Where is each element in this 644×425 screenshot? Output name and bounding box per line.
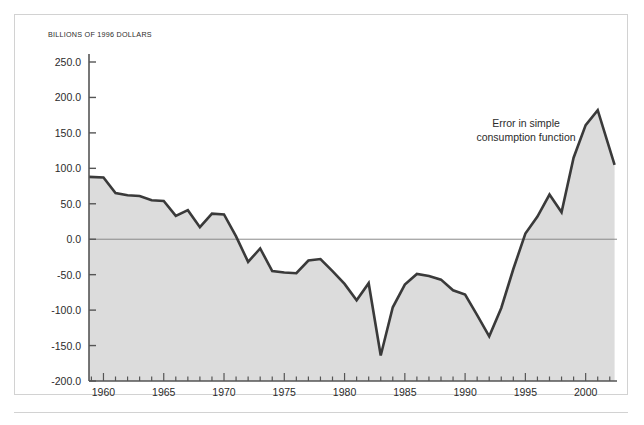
y-tick-label: 50.0 [29,198,81,210]
y-tick-label: 100.0 [29,162,81,174]
y-tick-label: -200.0 [29,375,81,387]
x-tick-label: 1985 [383,386,427,398]
area-fill-group [89,110,615,381]
y-tick-label: 0.0 [29,233,81,245]
x-tick-label: 1990 [443,386,487,398]
chart-figure: BILLIONS OF 1996 DOLLARS Error in simple… [0,0,644,425]
y-axis-unit-label: BILLIONS OF 1996 DOLLARS [48,30,152,39]
x-tick-label: 1980 [323,386,367,398]
x-tick-label: 1970 [202,386,246,398]
y-tick-label: -100.0 [29,304,81,316]
chart-annotation-error-in-simple-consumption-function: Error in simple consumption function [470,117,582,144]
y-tick-label: 200.0 [29,91,81,103]
x-tick-label: 1960 [81,386,125,398]
y-tick-label: 150.0 [29,127,81,139]
x-tick-label: 1965 [142,386,186,398]
x-tick-label: 2000 [564,386,608,398]
x-tick-label: 1995 [503,386,547,398]
x-tick-label: 1975 [262,386,306,398]
y-tick-label: 250.0 [29,56,81,68]
y-tick-label: -150.0 [29,340,81,352]
area-fill [89,110,615,381]
chart-plot-area [0,0,644,425]
y-tick-label: -50.0 [29,269,81,281]
